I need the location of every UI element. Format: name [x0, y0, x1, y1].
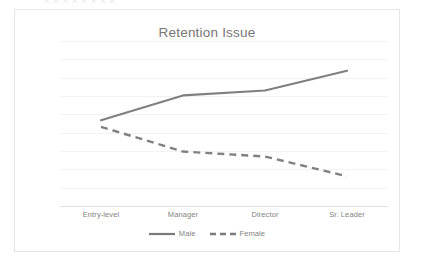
chart-container: Retention Issue Entry-level Manager Dire… [14, 9, 400, 252]
x-axis-label-3: Sr. Leader [306, 210, 388, 219]
series-line-female [101, 127, 347, 177]
x-axis-label-2: Director [224, 210, 306, 219]
x-axis-label-0: Entry-level [60, 210, 142, 219]
top-cut-off-text-artifact: x x x x x x x x [0, 0, 424, 3]
series-lines [60, 41, 388, 206]
legend-swatch-solid-icon [149, 230, 175, 238]
legend-label-male: Male [179, 229, 196, 238]
x-axis-labels: Entry-level Manager Director Sr. Leader [60, 210, 388, 219]
chart-legend: Male Female [15, 229, 399, 238]
plot-area [60, 41, 388, 206]
chart-title: Retention Issue [15, 25, 399, 40]
legend-swatch-dashed-icon [210, 230, 236, 238]
legend-item-female[interactable]: Female [210, 229, 266, 238]
legend-label-female: Female [240, 229, 266, 238]
series-line-male [101, 71, 347, 121]
x-axis-line [60, 206, 388, 207]
x-axis-label-1: Manager [142, 210, 224, 219]
legend-item-male[interactable]: Male [149, 229, 196, 238]
